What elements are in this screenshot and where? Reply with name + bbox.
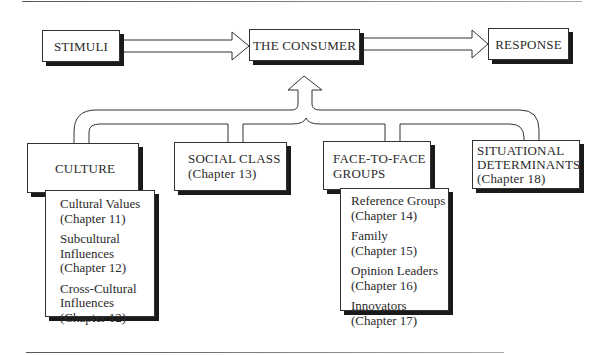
subitem-cross-cultural-influences: Cross-Cultural Influences (Chapter 12) — [60, 282, 154, 326]
stimuli-box: STIMULI — [42, 30, 120, 62]
subitem-title: Cultural Values — [60, 197, 154, 212]
subitem-cultural-values: Cultural Values (Chapter 11) — [60, 197, 154, 226]
social-class-title: SOCIAL CLASS — [188, 151, 281, 166]
subitem-title-2: Influences — [60, 296, 154, 311]
subitem-title: Innovators — [351, 299, 448, 314]
subitem-chapter: (Chapter 17) — [351, 314, 448, 329]
culture-box: CULTURE — [27, 143, 139, 193]
situational-chapter: (Chapter 18) — [477, 171, 545, 186]
face-to-face-title-2: GROUPS — [333, 166, 386, 181]
subitem-chapter: (Chapter 11) — [60, 212, 154, 227]
face-to-face-title-1: FACE-TO-FACE — [333, 151, 426, 166]
subitem-opinion-leaders: Opinion Leaders (Chapter 16) — [351, 264, 448, 293]
culture-subitems-box: Cultural Values (Chapter 11) Subcultural… — [45, 190, 155, 317]
subitem-title: Cross-Cultural — [60, 282, 154, 297]
subitem-reference-groups: Reference Groups (Chapter 14) — [351, 194, 448, 223]
subitem-chapter: (Chapter 16) — [351, 279, 448, 294]
subitem-chapter: (Chapter 14) — [351, 209, 448, 224]
subitem-title-2: Influences — [60, 247, 154, 262]
subitem-title: Reference Groups — [351, 194, 448, 209]
subitem-title: Opinion Leaders — [351, 264, 448, 279]
stimuli-label: STIMULI — [54, 39, 108, 54]
subitem-chapter: (Chapter 12) — [60, 261, 154, 276]
arrow-influences-to-consumer — [74, 76, 539, 143]
subitem-title: Subcultural — [60, 232, 154, 247]
situational-determinants-box: SITUATIONAL DETERMINANTS (Chapter 18) — [472, 140, 580, 189]
situational-title-2: DETERMINANTS — [477, 157, 581, 172]
subitem-title: Family — [351, 229, 448, 244]
arrow-stimuli-to-consumer — [120, 32, 249, 60]
subitem-family: Family (Chapter 15) — [351, 229, 448, 258]
subitem-subcultural-influences: Subcultural Influences (Chapter 12) — [60, 232, 154, 276]
social-class-chapter: (Chapter 13) — [188, 166, 256, 181]
culture-title: CULTURE — [55, 161, 115, 176]
response-box: RESPONSE — [488, 28, 569, 60]
subitem-innovators: Innovators (Chapter 17) — [351, 299, 448, 328]
subitem-chapter: (Chapter 12) — [60, 311, 154, 326]
situational-title-1: SITUATIONAL — [477, 143, 564, 158]
arrow-consumer-to-response — [360, 30, 488, 58]
face-to-face-subitems-box: Reference Groups (Chapter 14) Family (Ch… — [340, 188, 449, 311]
consumer-box: THE CONSUMER — [249, 29, 360, 61]
response-label: RESPONSE — [495, 37, 562, 52]
face-to-face-box: FACE-TO-FACE GROUPS — [323, 141, 431, 190]
social-class-box: SOCIAL CLASS (Chapter 13) — [174, 142, 287, 191]
subitem-chapter: (Chapter 15) — [351, 244, 448, 259]
consumer-label: THE CONSUMER — [253, 38, 356, 53]
